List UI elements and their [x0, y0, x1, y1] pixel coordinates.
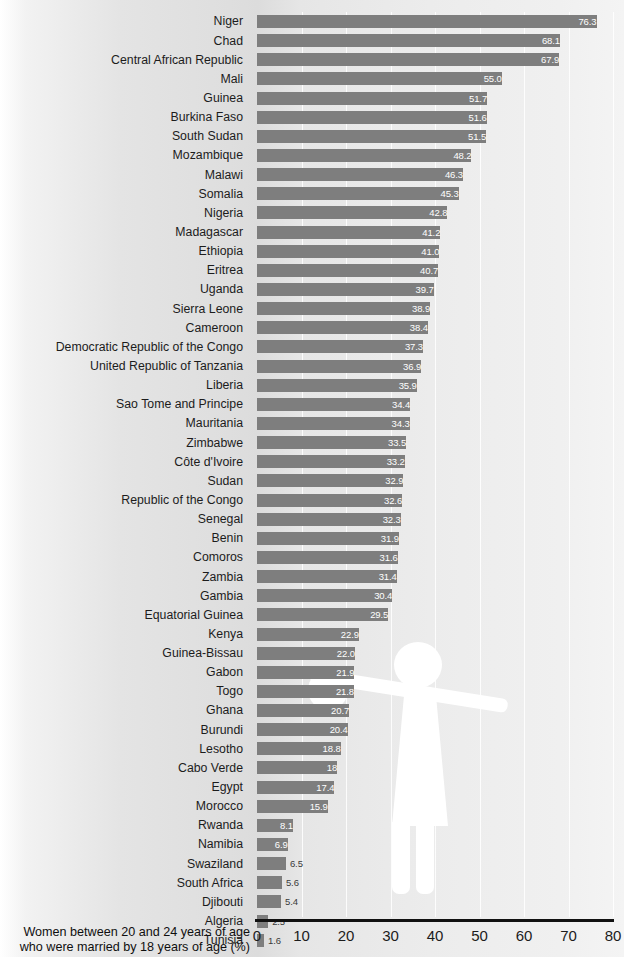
category-label-row[interactable]: Guinea [0, 89, 250, 108]
bar-row[interactable]: 21.9 [257, 663, 613, 682]
category-label-row[interactable]: Central African Republic [0, 50, 250, 69]
bar-row[interactable]: 30.4 [257, 586, 613, 605]
category-label-row[interactable]: United Republic of Tanzania [0, 357, 250, 376]
bar-value-label: 46.3 [257, 168, 467, 181]
category-label: Senegal [198, 513, 243, 525]
bar-row[interactable]: 37.3 [257, 337, 613, 356]
category-label-row[interactable]: Burkina Faso [0, 108, 250, 127]
bar-row[interactable]: 39.7 [257, 280, 613, 299]
category-label-row[interactable]: Malawi [0, 165, 250, 184]
category-label-row[interactable]: Eritrea [0, 261, 250, 280]
bar-row[interactable]: 5.4 [257, 892, 613, 911]
bar-row[interactable]: 68.1 [257, 31, 613, 50]
bar-row[interactable]: 34.3 [257, 414, 613, 433]
bar-row[interactable]: 20.4 [257, 720, 613, 739]
bar-row[interactable]: 5.6 [257, 873, 613, 892]
bar-row[interactable]: 46.3 [257, 165, 613, 184]
bar-row[interactable]: 38.4 [257, 318, 613, 337]
bar-row[interactable]: 38.9 [257, 299, 613, 318]
bar-row[interactable]: 31.9 [257, 529, 613, 548]
category-label-row[interactable]: Chad [0, 31, 250, 50]
bar-row[interactable]: 31.6 [257, 548, 613, 567]
category-label-row[interactable]: Democratic Republic of the Congo [0, 337, 250, 356]
bar-row[interactable]: 32.3 [257, 510, 613, 529]
bar-row[interactable]: 32.6 [257, 491, 613, 510]
bar-row[interactable]: 33.2 [257, 452, 613, 471]
category-label-row[interactable]: Sudan [0, 471, 250, 490]
category-label-row[interactable]: Sierra Leone [0, 299, 250, 318]
category-label-row[interactable]: Equatorial Guinea [0, 605, 250, 624]
category-label-row[interactable]: Niger [0, 12, 250, 31]
bar-row[interactable]: 76.3 [257, 12, 613, 31]
category-label-row[interactable]: Madagascar [0, 223, 250, 242]
category-label-row[interactable]: Ghana [0, 701, 250, 720]
bar-row[interactable]: 18.8 [257, 739, 613, 758]
bar-row[interactable]: 34.4 [257, 395, 613, 414]
category-label-row[interactable]: Nigeria [0, 203, 250, 222]
category-label-row[interactable]: Uganda [0, 280, 250, 299]
category-label-row[interactable]: Comoros [0, 548, 250, 567]
bar-row[interactable]: 41.0 [257, 242, 613, 261]
category-label-row[interactable]: Egypt [0, 778, 250, 797]
category-label-row[interactable]: Namibia [0, 835, 250, 854]
category-label-row[interactable]: South Sudan [0, 127, 250, 146]
category-label-row[interactable]: Morocco [0, 797, 250, 816]
bar-row[interactable]: 18 [257, 758, 613, 777]
bar-row[interactable]: 31.4 [257, 567, 613, 586]
category-label-row[interactable]: Gabon [0, 663, 250, 682]
category-label-row[interactable]: Republic of the Congo [0, 491, 250, 510]
category-label-row[interactable]: Swaziland [0, 854, 250, 873]
bar-row[interactable]: 20.7 [257, 701, 613, 720]
bar-row[interactable]: 22.9 [257, 625, 613, 644]
bar-row[interactable]: 55.0 [257, 69, 613, 88]
bar-row[interactable]: 51.6 [257, 108, 613, 127]
bar-row[interactable]: 21.8 [257, 682, 613, 701]
bar-row[interactable]: 8.1 [257, 816, 613, 835]
bar-row[interactable]: 32.9 [257, 471, 613, 490]
bar-row[interactable]: 17.4 [257, 778, 613, 797]
category-label-row[interactable]: Zambia [0, 567, 250, 586]
bar-row[interactable]: 51.5 [257, 127, 613, 146]
bar-row[interactable]: 67.9 [257, 50, 613, 69]
category-label-row[interactable]: Somalia [0, 184, 250, 203]
category-label-row[interactable]: Zimbabwe [0, 433, 250, 452]
bar-row[interactable]: 36.9 [257, 357, 613, 376]
bar-row[interactable]: 51.7 [257, 89, 613, 108]
category-label-row[interactable]: South Africa [0, 873, 250, 892]
bar[interactable] [257, 857, 286, 870]
bar-row[interactable]: 6.5 [257, 854, 613, 873]
bar-row[interactable]: 35.9 [257, 376, 613, 395]
bar-row[interactable]: 29.5 [257, 605, 613, 624]
bar-row[interactable]: 40.7 [257, 261, 613, 280]
bar-row[interactable]: 41.2 [257, 223, 613, 242]
category-label-row[interactable]: Lesotho [0, 739, 250, 758]
bar-row[interactable]: 6.9 [257, 835, 613, 854]
category-label-row[interactable]: Côte d'Ivoire [0, 452, 250, 471]
category-label-row[interactable]: Benin [0, 529, 250, 548]
category-label-row[interactable]: Cabo Verde [0, 758, 250, 777]
category-label-row[interactable]: Sao Tome and Principe [0, 395, 250, 414]
category-label-row[interactable]: Rwanda [0, 816, 250, 835]
category-label-row[interactable]: Kenya [0, 625, 250, 644]
bar-row[interactable]: 33.5 [257, 433, 613, 452]
category-label-row[interactable]: Ethiopia [0, 242, 250, 261]
bar-row[interactable]: 42.8 [257, 203, 613, 222]
bar-value-label: 37.3 [257, 340, 427, 353]
category-label-row[interactable]: Guinea-Bissau [0, 644, 250, 663]
category-label-row[interactable]: Cameroon [0, 318, 250, 337]
bar-row[interactable]: 15.9 [257, 797, 613, 816]
category-label-row[interactable]: Burundi [0, 720, 250, 739]
bar[interactable] [257, 876, 282, 889]
bar[interactable] [257, 895, 281, 908]
bar-row[interactable]: 45.3 [257, 184, 613, 203]
category-label-row[interactable]: Mali [0, 69, 250, 88]
bar-row[interactable]: 48.2 [257, 146, 613, 165]
category-label-row[interactable]: Mozambique [0, 146, 250, 165]
category-label-row[interactable]: Mauritania [0, 414, 250, 433]
category-label-row[interactable]: Liberia [0, 376, 250, 395]
bar-row[interactable]: 22.0 [257, 644, 613, 663]
category-label-row[interactable]: Gambia [0, 586, 250, 605]
category-label-row[interactable]: Djibouti [0, 892, 250, 911]
category-label-row[interactable]: Togo [0, 682, 250, 701]
category-label-row[interactable]: Senegal [0, 510, 250, 529]
